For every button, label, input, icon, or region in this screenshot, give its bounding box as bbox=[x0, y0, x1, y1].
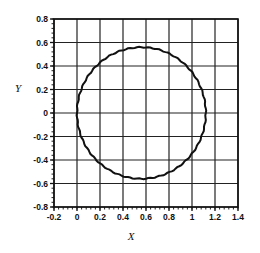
y-tick-label: 0.2 bbox=[36, 85, 48, 95]
x-tick-label: 1.4 bbox=[232, 212, 244, 222]
y-tick-label: 0 bbox=[43, 108, 48, 118]
y-tick-label: 0.4 bbox=[36, 61, 48, 71]
x-tick-label: 0 bbox=[75, 212, 80, 222]
x-axis-label: X bbox=[127, 230, 136, 242]
y-axis-label: Y bbox=[15, 82, 23, 94]
y-tick-label: 0.6 bbox=[36, 38, 48, 48]
x-tick-label: 0.2 bbox=[94, 212, 106, 222]
x-tick-labels: -0.200.20.40.60.811.21.4 bbox=[47, 212, 245, 222]
x-tick-label: 1.2 bbox=[209, 212, 221, 222]
y-tick-label: -0.2 bbox=[33, 132, 48, 142]
x-tick-label: -0.2 bbox=[47, 212, 62, 222]
y-tick-label: -0.4 bbox=[33, 155, 48, 165]
y-tick-labels: 0.80.60.40.20-0.2-0.4-0.6-0.8 bbox=[33, 14, 48, 212]
x-tick-label: 0.4 bbox=[117, 212, 129, 222]
x-tick-label: 0.8 bbox=[163, 212, 175, 222]
y-tick-label: -0.8 bbox=[33, 202, 48, 212]
x-tick-label: 1 bbox=[190, 212, 195, 222]
x-tick-label: 0.6 bbox=[140, 212, 152, 222]
chart: -0.200.20.40.60.811.21.4 0.80.60.40.20-0… bbox=[0, 0, 260, 253]
y-tick-label: 0.8 bbox=[36, 14, 48, 24]
y-tick-label: -0.6 bbox=[33, 179, 48, 189]
